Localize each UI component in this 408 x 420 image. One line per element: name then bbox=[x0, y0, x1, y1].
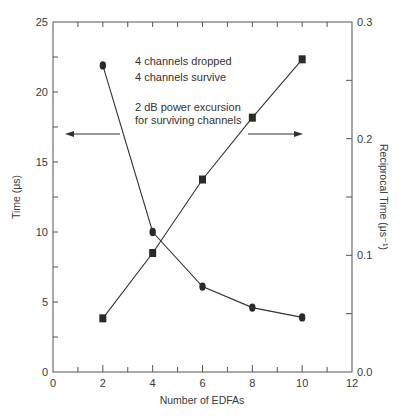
y2-tick-label: 0.3 bbox=[357, 16, 372, 28]
y-tick-label: 20 bbox=[36, 86, 48, 98]
chart-container: 024681012 0510152025 0.00.10.20.3 Number… bbox=[0, 0, 408, 420]
data-point-circle bbox=[249, 303, 255, 311]
x-tick-label: 0 bbox=[50, 377, 56, 389]
x-tick-labels: 024681012 bbox=[50, 377, 358, 389]
y2-tick-label: 0.1 bbox=[357, 249, 372, 261]
x-tick-label: 10 bbox=[296, 377, 308, 389]
y-tick-label: 5 bbox=[42, 296, 48, 308]
left-axis-arrow bbox=[65, 131, 120, 137]
y-tick-label: 0 bbox=[42, 366, 48, 378]
y2-tick-labels: 0.00.10.20.3 bbox=[357, 16, 372, 378]
data-point-circle bbox=[299, 313, 305, 321]
y-tick-labels: 0510152025 bbox=[36, 16, 48, 378]
data-point-square bbox=[199, 176, 206, 184]
y2-tick-label: 0.2 bbox=[357, 133, 372, 145]
annotation-line-2: 4 channels survive bbox=[135, 71, 226, 83]
x-tick-label: 8 bbox=[249, 377, 255, 389]
x-tick-label: 2 bbox=[100, 377, 106, 389]
x-tick-label: 12 bbox=[346, 377, 358, 389]
data-point-circle bbox=[199, 282, 205, 290]
annotation-line-1: 4 channels dropped bbox=[135, 55, 232, 67]
y-axis-title: Time (μs) bbox=[10, 175, 22, 219]
x-axis-title: Number of EDFAs bbox=[160, 394, 245, 406]
arrow-right-icon bbox=[294, 131, 303, 137]
data-series bbox=[99, 55, 305, 322]
arrow-left-icon bbox=[65, 131, 74, 137]
y2-tick-label: 0.0 bbox=[357, 366, 372, 378]
annotation-text: 4 channels dropped 4 channels survive 2 … bbox=[135, 55, 242, 126]
data-point-circle bbox=[149, 228, 155, 236]
x-tick-label: 4 bbox=[150, 377, 156, 389]
data-point-circle bbox=[100, 61, 106, 69]
annotation-line-4: for surviving channels bbox=[135, 114, 242, 126]
data-point-square bbox=[149, 249, 156, 257]
y-tick-label: 25 bbox=[36, 16, 48, 28]
y-tick-label: 10 bbox=[36, 226, 48, 238]
annotation-line-3: 2 dB power excursion bbox=[135, 101, 241, 113]
data-point-square bbox=[299, 55, 306, 63]
chart-svg: 024681012 0510152025 0.00.10.20.3 Number… bbox=[0, 0, 408, 420]
y-tick-label: 15 bbox=[36, 156, 48, 168]
x-tick-label: 6 bbox=[199, 377, 205, 389]
right-axis-arrow bbox=[248, 131, 303, 137]
data-point-square bbox=[99, 314, 106, 322]
data-point-square bbox=[249, 114, 256, 122]
y2-axis-title: Reciprocal Time (μs⁻¹) bbox=[378, 144, 390, 250]
series-line-square bbox=[103, 59, 302, 318]
